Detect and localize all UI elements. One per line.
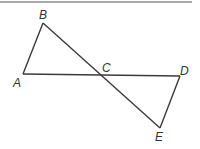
label-c: C xyxy=(102,61,111,75)
triangle-diagram: A B C D E xyxy=(0,0,200,149)
label-b: B xyxy=(39,8,47,22)
label-d: D xyxy=(180,64,189,78)
label-e: E xyxy=(155,130,164,144)
segment-de xyxy=(160,76,180,128)
segment-ab xyxy=(23,23,43,74)
label-a: A xyxy=(12,76,21,90)
